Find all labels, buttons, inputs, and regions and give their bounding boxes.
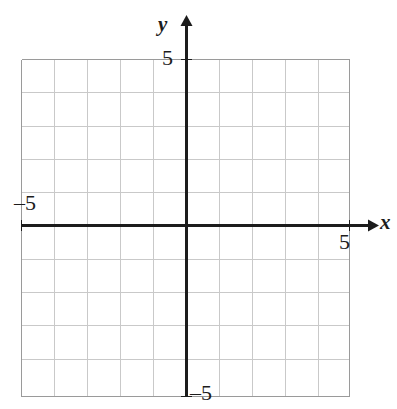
y-axis-tick-label-5: 5 <box>162 47 173 69</box>
y-axis-tick-label-negative-5: –5 <box>190 382 212 404</box>
y-axis-label: y <box>158 14 167 35</box>
y-axis-arrowhead <box>181 15 193 26</box>
x-axis-label: x <box>380 212 391 233</box>
coordinate-plane <box>0 0 397 409</box>
x-axis <box>21 220 379 232</box>
x-axis-arrowhead <box>368 220 379 232</box>
x-axis-tick-label-negative-5: –5 <box>14 192 36 214</box>
graph-figure: y x 5 –5 5 –5 <box>0 0 397 409</box>
x-axis-tick-label-5: 5 <box>339 231 350 253</box>
y-axis <box>181 15 193 396</box>
